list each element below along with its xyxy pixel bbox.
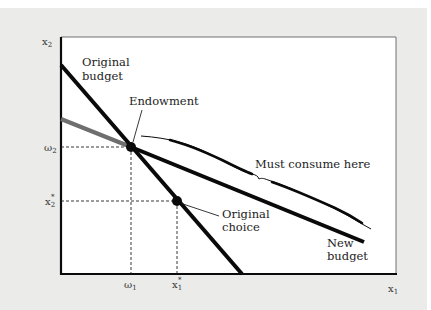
x-tick-x1star: x1* (172, 276, 182, 292)
endowment-label: Endowment (129, 94, 199, 108)
endowment-budget-diagram: Original budget Endowment Must consume h… (0, 0, 431, 310)
x-tick-omega1: ω1 (124, 279, 137, 292)
original-choice-point (172, 196, 182, 206)
original-choice-label-2: choice (222, 220, 260, 234)
y-axis-label: x2 (42, 36, 52, 49)
x-axis-label: x1 (388, 283, 398, 296)
endowment-point (126, 142, 136, 152)
original-budget-label-1: Original (82, 55, 130, 69)
page: Original budget Endowment Must consume h… (0, 0, 431, 310)
must-consume-label: Must consume here (255, 157, 371, 171)
original-budget-label-2: budget (82, 69, 123, 83)
new-budget-label-2: budget (327, 249, 368, 263)
y-tick-x2star: x2* (45, 193, 55, 209)
y-tick-omega2: ω2 (44, 142, 57, 155)
original-choice-label-1: Original (222, 207, 270, 221)
new-budget-label-1: New (327, 236, 354, 250)
